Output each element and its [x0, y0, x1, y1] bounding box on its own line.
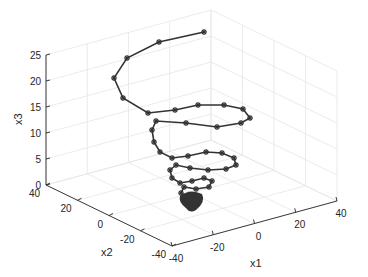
x2-tick-label: 20 — [60, 203, 72, 214]
asterisk-marker — [201, 29, 207, 35]
z-tick-label: 10 — [30, 128, 42, 139]
x1-tick-label: -20 — [210, 242, 225, 253]
asterisk-marker — [169, 155, 175, 161]
asterisk-marker — [120, 95, 126, 101]
asterisk-marker — [223, 166, 229, 172]
asterisk-marker — [219, 150, 225, 156]
asterisk-marker — [221, 102, 227, 108]
asterisk-marker — [209, 178, 215, 184]
x1-tick-label: 20 — [294, 219, 306, 230]
asterisk-marker — [214, 124, 220, 130]
x1-tick-label: -40 — [169, 253, 184, 264]
data-series — [111, 29, 253, 212]
asterisk-marker — [193, 186, 199, 192]
asterisk-marker — [181, 184, 187, 190]
x1-tick-label: 0 — [256, 231, 262, 242]
asterisk-marker — [238, 120, 244, 126]
asterisk-marker — [205, 167, 211, 173]
convergence-cluster — [180, 191, 204, 211]
x2-tick-label: -20 — [120, 234, 135, 245]
asterisk-marker — [183, 120, 189, 126]
asterisk-marker — [156, 39, 162, 45]
asterisk-marker — [233, 162, 239, 168]
asterisk-marker — [206, 184, 212, 190]
asterisk-marker — [231, 155, 237, 161]
asterisk-marker — [153, 118, 159, 124]
asterisk-marker — [173, 162, 179, 168]
trajectory-line — [114, 32, 250, 207]
asterisk-marker — [189, 178, 195, 184]
asterisk-marker — [195, 102, 201, 108]
x2-axis-label: x2 — [101, 246, 113, 258]
3d-spiral-plot: 051015202540200-20-40-40-2002040 x1 x2 x… — [0, 0, 368, 277]
asterisk-marker — [151, 139, 157, 145]
asterisk-marker — [187, 165, 193, 171]
asterisk-marker — [167, 167, 173, 173]
asterisk-marker — [240, 106, 246, 112]
asterisk-marker — [172, 107, 178, 113]
asterisk-marker — [247, 115, 253, 121]
x2-tick-label: 0 — [97, 219, 103, 230]
x2-tick-label: 40 — [29, 188, 41, 199]
x3-axis-label: x3 — [12, 113, 24, 125]
asterisk-marker — [185, 153, 191, 159]
asterisk-marker — [157, 149, 163, 155]
x2-tick-label: -40 — [152, 249, 167, 260]
asterisk-marker — [203, 149, 209, 155]
x1-tick-label: 40 — [335, 208, 347, 219]
asterisk-marker — [145, 110, 151, 116]
z-tick-label: 20 — [30, 76, 42, 87]
x1-axis-label: x1 — [250, 257, 262, 269]
asterisk-marker — [201, 175, 207, 181]
z-tick-label: 5 — [35, 154, 41, 165]
asterisk-marker — [111, 75, 117, 81]
asterisk-marker — [149, 127, 155, 133]
z-tick-label: 25 — [30, 50, 42, 61]
asterisk-marker — [124, 55, 130, 61]
asterisk-marker — [169, 175, 175, 181]
z-tick-label: 15 — [30, 102, 42, 113]
